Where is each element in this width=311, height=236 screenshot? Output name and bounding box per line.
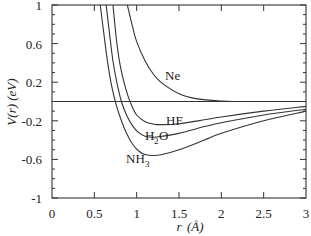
curve-hf xyxy=(113,5,306,125)
y-tick-label: 0.2 xyxy=(26,75,42,90)
y-axis-title: V(r) (eV) xyxy=(4,78,19,125)
y-tick-label: -0.2 xyxy=(21,114,42,129)
h2o-subscript: 2 xyxy=(154,136,159,146)
nh3-nh: NH xyxy=(126,151,145,166)
y-tick-label: 1 xyxy=(36,0,43,13)
x-axis-unit: (Å) xyxy=(187,219,204,234)
potential-energy-chart: 00.511.522.5310.60.2-0.2-0.6-1 V(r) (eV)… xyxy=(0,0,311,236)
curve-label-ne: Ne xyxy=(165,68,180,83)
h2o-o: O xyxy=(159,128,168,143)
curve-nh3 xyxy=(100,5,306,156)
curve-ne xyxy=(127,5,306,102)
x-axis-title: r xyxy=(176,219,182,234)
curves xyxy=(100,5,306,156)
h2o-h: H xyxy=(145,128,154,143)
x-tick-label: 2.5 xyxy=(256,206,272,221)
x-tick-label: 2 xyxy=(218,206,225,221)
x-tick-label: 3 xyxy=(303,206,310,221)
y-tick-label: -1 xyxy=(31,191,42,206)
x-tick-label: 1 xyxy=(133,206,140,221)
x-tick-label: 0.5 xyxy=(86,206,102,221)
x-tick-label: 0 xyxy=(49,206,56,221)
curve-label-h2o: H 2 O xyxy=(145,128,168,146)
nh3-subscript: 3 xyxy=(145,159,150,169)
y-tick-label: -0.6 xyxy=(21,152,42,167)
y-tick-label: 0.6 xyxy=(26,37,43,52)
curve-label-nh3: NH 3 xyxy=(126,151,150,169)
curve-label-hf: HF xyxy=(166,113,183,128)
